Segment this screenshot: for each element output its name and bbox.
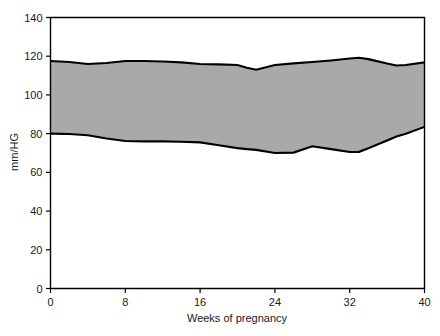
y-tick-label: 0 (36, 283, 42, 295)
x-tick-label: 16 (194, 296, 206, 308)
y-tick-label: 100 (24, 89, 42, 101)
x-tick-label: 8 (122, 296, 128, 308)
y-tick-label: 80 (30, 128, 42, 140)
chart-container: 020406080100120140 0816243240 mm/HG Week… (0, 0, 440, 336)
x-tick-label: 24 (269, 296, 281, 308)
x-tick-label: 40 (418, 296, 430, 308)
chart-screenshot: 020406080100120140 0816243240 mm/HG Week… (0, 0, 440, 336)
y-axis-tick-labels: 020406080100120140 (24, 12, 42, 295)
x-axis-tick-labels: 0816243240 (47, 296, 430, 308)
y-tick-label: 140 (24, 12, 42, 24)
y-tick-label: 60 (30, 166, 42, 178)
y-tick-label: 40 (30, 205, 42, 217)
x-axis-title: Weeks of pregnancy (187, 312, 288, 324)
x-tick-label: 0 (47, 296, 53, 308)
x-tick-label: 32 (344, 296, 356, 308)
y-tick-label: 20 (30, 244, 42, 256)
area-chart: 020406080100120140 0816243240 mm/HG Week… (0, 0, 440, 336)
y-tick-label: 120 (24, 50, 42, 62)
y-axis-title: mm/HG (8, 133, 20, 171)
